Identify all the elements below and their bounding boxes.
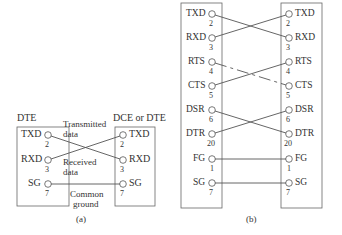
pin-number: 2	[45, 140, 49, 149]
pin-connector-icon	[286, 156, 293, 163]
pin-number: 7	[45, 189, 49, 198]
pin-connector-icon	[45, 157, 52, 164]
pin-label: RXD	[129, 153, 150, 164]
pin-number: 2	[209, 19, 213, 28]
pin-number: 1	[287, 164, 291, 173]
pin-connector-icon	[286, 11, 293, 18]
pin-connector-icon	[286, 131, 293, 138]
pin-number: 4	[286, 67, 290, 76]
pin-connector-icon	[286, 83, 293, 90]
pin-label: TXD	[129, 128, 150, 139]
common-ground-label-2: ground	[73, 199, 99, 209]
pin-number: 3	[286, 43, 290, 52]
pin-label: DTR	[186, 128, 206, 138]
received-label: Received	[63, 157, 97, 167]
pin-label: SG	[295, 177, 307, 187]
pin-number: 2	[120, 140, 124, 149]
pin-connector-icon	[120, 181, 127, 188]
pin-label: RTS	[295, 56, 312, 66]
caption-b: (b)	[246, 214, 257, 224]
pin-connector-icon	[286, 59, 293, 66]
pin-label: RXD	[186, 32, 206, 42]
pin-label: FG	[295, 153, 307, 163]
pin-number: 3	[120, 165, 124, 174]
pin-connector-icon	[209, 180, 216, 187]
diagram-b: TXD 2 RXD 3 RTS 4 CTS 5 DSR 6 DTR 20 FG …	[181, 3, 322, 224]
pin-label: DTR	[295, 128, 315, 138]
pin-connector-icon	[45, 181, 52, 188]
pin-number: 7	[209, 188, 213, 197]
dce-or-dte-title: DCE or DTE	[113, 112, 166, 123]
pin-connector-icon	[209, 59, 216, 66]
pin-connector-icon	[209, 35, 216, 42]
pin-connector-icon	[286, 35, 293, 42]
pin-connector-icon	[120, 132, 127, 139]
pin-connector-icon	[286, 180, 293, 187]
pin-connector-icon	[45, 132, 52, 139]
common-ground-label: Common	[70, 189, 104, 199]
diagram-a: DTE DCE or DTE TXD 2 RXD 3 SG 7 TXD 2 RX…	[17, 112, 166, 224]
pin-number: 4	[209, 67, 213, 76]
pin-connector-icon	[209, 83, 216, 90]
right-pins: TXD 2 RXD 3 RTS 4 CTS 5 DSR 6 DTR 20 FG …	[284, 8, 315, 197]
pin-label: CTS	[295, 80, 312, 90]
pin-connector-icon	[120, 157, 127, 164]
pin-number: 1	[210, 164, 214, 173]
pin-connector-icon	[209, 107, 216, 114]
pin-label: SG	[28, 177, 41, 188]
transmitted-label: Transmitted	[63, 119, 107, 129]
pin-connector-icon	[209, 131, 216, 138]
caption-a: (a)	[76, 214, 86, 224]
pin-number: 6	[209, 115, 213, 124]
pin-number: 20	[207, 139, 215, 148]
pin-label: RTS	[188, 56, 205, 66]
pin-label: SG	[193, 177, 205, 187]
pin-number: 20	[284, 139, 292, 148]
pin-number: 3	[45, 165, 49, 174]
pin-label: RXD	[21, 153, 42, 164]
pin-connector-icon	[209, 11, 216, 18]
serial-wiring-figure: DTE DCE or DTE TXD 2 RXD 3 SG 7 TXD 2 RX…	[0, 0, 342, 235]
pin-connector-icon	[286, 107, 293, 114]
pin-label: TXD	[186, 8, 206, 18]
received-label-2: data	[63, 167, 78, 177]
pin-number: 3	[209, 43, 213, 52]
pin-label: FG	[193, 153, 205, 163]
pin-number: 5	[209, 91, 213, 100]
pin-connector-icon	[209, 156, 216, 163]
pin-label: TXD	[295, 8, 315, 18]
pin-number: 6	[286, 115, 290, 124]
transmitted-label-2: data	[63, 129, 78, 139]
pin-label: RXD	[295, 32, 315, 42]
dte-title: DTE	[17, 112, 36, 123]
pin-number: 7	[286, 188, 290, 197]
pin-number: 7	[120, 189, 124, 198]
pin-label: TXD	[21, 128, 42, 139]
pin-label: SG	[129, 177, 142, 188]
wires-b	[215, 15, 286, 183]
pin-label: CTS	[188, 80, 205, 90]
left-pins: TXD 2 RXD 3 RTS 4 CTS 5 DSR 6 DTR 20 FG …	[186, 8, 215, 197]
pin-number: 2	[286, 19, 290, 28]
pin-number: 5	[286, 91, 290, 100]
pin-label: DSR	[295, 104, 314, 114]
pin-label: DSR	[186, 104, 205, 114]
